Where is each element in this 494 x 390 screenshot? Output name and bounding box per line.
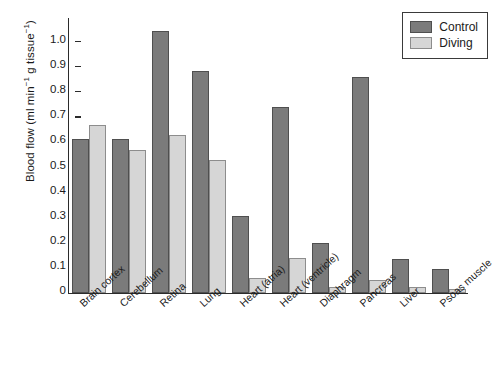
y-axis-tick: 0.3 [33, 217, 75, 218]
bar-diving [89, 125, 106, 293]
y-axis-tick-label: 0.5 [36, 159, 66, 171]
y-axis-title-sup2: −1 [22, 24, 31, 33]
y-axis-title-close: ) [24, 20, 36, 24]
y-axis-tick: 0.8 [33, 91, 75, 92]
y-axis-tick: 0.7 [33, 116, 75, 117]
y-axis-tick-label: 0 [36, 284, 66, 296]
legend-swatch-diving [410, 37, 432, 49]
bar-diving [129, 150, 146, 293]
y-axis-title-base: Blood flow (ml min [24, 86, 36, 182]
bar-group [232, 18, 266, 293]
bar-group [192, 18, 226, 293]
legend-swatch-control [410, 21, 432, 33]
y-axis-tick: 0.6 [33, 141, 75, 142]
bar-group [392, 18, 426, 293]
bar-control [432, 269, 449, 293]
y-axis-tick: 0.9 [33, 66, 75, 67]
bar-group [112, 18, 146, 293]
bar-chart: Blood flow (ml min−1 g tissue−1) 00.10.2… [0, 0, 494, 390]
y-axis-tick-label: 1.0 [36, 33, 66, 45]
y-axis-tick-label: 0.2 [36, 234, 66, 246]
bar-diving [209, 160, 226, 293]
y-axis-tick: 0 [33, 292, 75, 293]
bar-control [232, 216, 249, 293]
y-axis-tick-label: 0.6 [36, 133, 66, 145]
y-axis-title-mid: g tissue [24, 33, 36, 77]
bar-group [72, 18, 106, 293]
y-axis-tick-label: 0.1 [36, 259, 66, 271]
legend-item: Diving [410, 36, 478, 50]
bar-group [272, 18, 306, 293]
bar-group [152, 18, 186, 293]
bar-control [72, 139, 89, 293]
bar-diving [169, 135, 186, 293]
y-axis-tick: 0.2 [33, 242, 75, 243]
legend-label: Control [439, 20, 478, 34]
y-axis-tick: 1.0 [33, 41, 75, 42]
legend-label: Diving [439, 36, 472, 50]
y-axis-tick-label: 0.3 [36, 209, 66, 221]
chart-legend: ControlDiving [402, 12, 488, 59]
legend-item: Control [410, 20, 478, 34]
bar-control [352, 77, 369, 293]
plot-area: 00.10.20.30.40.50.60.70.80.91.0 [68, 18, 468, 294]
y-axis-title: Blood flow (ml min−1 g tissue−1) [24, 0, 36, 211]
y-axis-tick: 0.4 [33, 192, 75, 193]
y-axis-tick-label: 0.8 [36, 83, 66, 95]
bar-control [192, 71, 209, 293]
y-axis-tick-label: 0.9 [36, 58, 66, 70]
y-axis-tick: 0.1 [33, 267, 75, 268]
y-axis-tick-label: 0.4 [36, 184, 66, 196]
bar-control [152, 31, 169, 293]
bar-group [352, 18, 386, 293]
y-axis-title-sup1: −1 [22, 77, 31, 86]
y-axis-tick: 0.5 [33, 167, 75, 168]
y-axis-tick-label: 0.7 [36, 108, 66, 120]
bar-group [432, 18, 466, 293]
